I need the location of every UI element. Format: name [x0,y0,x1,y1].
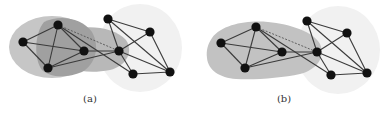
node-b-B5 [362,68,371,77]
node-b-A4 [240,63,249,72]
panel-b-regions [207,6,380,94]
node-b-B1 [302,16,311,25]
caption-b: (b) [277,93,291,104]
node-b-A3 [277,47,286,56]
node-b-A2 [251,22,260,31]
node-a-A3 [79,46,88,55]
node-a-B2 [145,27,154,36]
panel-a-regions [9,4,182,92]
node-b-B3 [312,47,321,56]
node-a-B5 [165,67,174,76]
node-a-B3 [114,46,123,55]
node-a-B1 [103,14,112,23]
node-a-A1 [18,37,27,46]
node-b-B2 [342,28,351,37]
caption-a: (a) [83,93,97,104]
node-a-B4 [128,69,137,78]
node-a-A2 [53,20,62,29]
node-a-A4 [43,63,52,72]
node-b-B4 [326,70,335,79]
figure: (a) (b) [0,0,386,118]
graph-diagram [0,0,386,118]
node-b-A1 [216,38,225,47]
